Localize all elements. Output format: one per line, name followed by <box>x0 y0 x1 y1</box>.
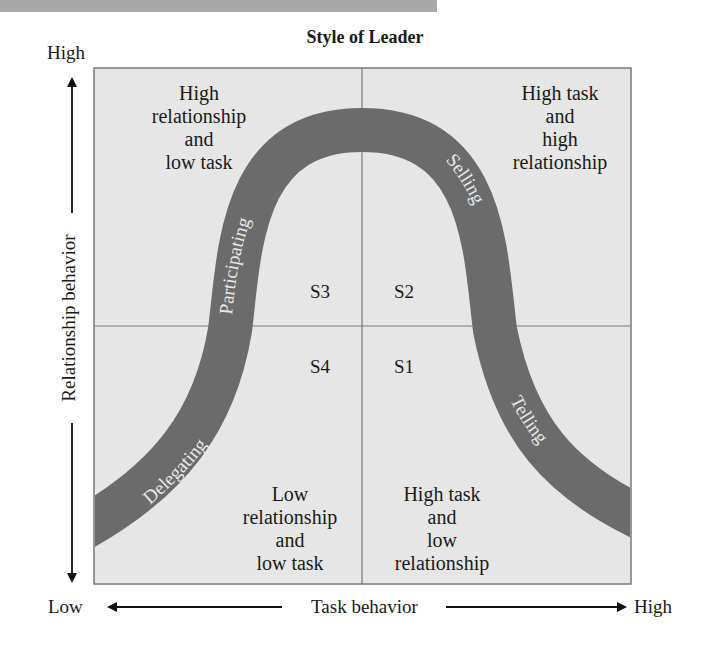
quadrant-top-right-text: High task and high relationship <box>486 82 634 174</box>
quadrant-bottom-right-text: High task and low relationship <box>372 483 512 575</box>
style-code-s1: S1 <box>394 356 414 378</box>
y-axis-label: Relationship behavior <box>58 213 80 423</box>
x-axis-label: Task behavior <box>287 596 442 618</box>
style-code-s3: S3 <box>310 281 330 303</box>
x-axis-high-label: High <box>634 596 672 618</box>
quadrant-top-left-text: High relationship and low task <box>132 82 266 174</box>
x-axis-low-label: Low <box>48 596 83 618</box>
y-axis-high-label: High <box>47 42 85 64</box>
style-code-s2: S2 <box>394 281 414 303</box>
style-code-s4: S4 <box>310 356 330 378</box>
quadrant-bottom-left-text: Low relationship and low task <box>220 483 360 575</box>
